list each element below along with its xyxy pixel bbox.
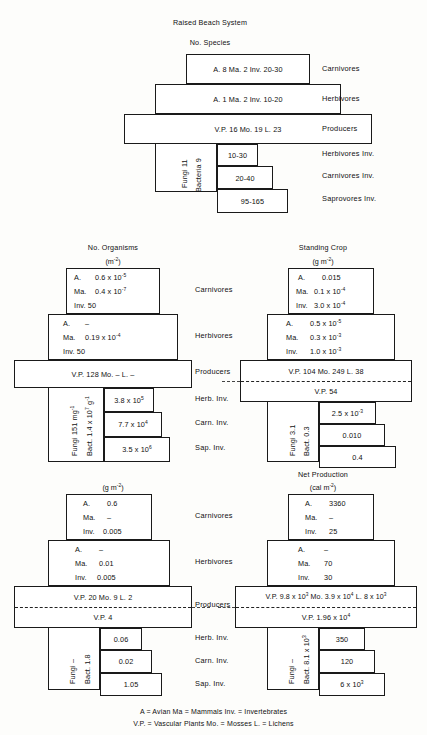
npc-carn-inv-value: 25 bbox=[329, 527, 337, 536]
organisms-fungi-label: Fungi 151 mg-1 bbox=[70, 406, 79, 456]
npc-sap-inv-box-value: 6 x 103 bbox=[320, 680, 384, 689]
standing-crop-herb-inv-box: 2.5 x 10-3 bbox=[319, 402, 376, 424]
npg-producers-value: V.P. 20 Mo. 9 L. 2 bbox=[15, 593, 191, 602]
npc-carn-inv-box-value: 120 bbox=[320, 657, 374, 666]
panel-title-species: No. Species bbox=[110, 38, 310, 47]
sc-carn-ma-label: Ma. bbox=[296, 287, 308, 296]
npc-producers-second-value: V.P. 1.96 x 104 bbox=[236, 613, 416, 622]
panel-title-standing-crop: Standing Crop bbox=[248, 243, 398, 252]
organisms-herb-a-label: A. bbox=[63, 319, 70, 328]
sc-producers-divider-ext bbox=[222, 381, 240, 382]
np-cal-herb-inv-box: 350 bbox=[319, 628, 365, 650]
npg-producers-second-value: V.P. 4 bbox=[15, 613, 191, 622]
npg-herb-inv-label: Inv. bbox=[75, 573, 87, 582]
panel-unit-organisms: (m-2) bbox=[38, 257, 188, 266]
standing-crop-carnivores-box: A. 0.015 Ma. 0.1 x 10-4 Inv. 3.0 x 10-4 bbox=[288, 268, 374, 314]
sc-bacteria-label: Bact. 0.3 bbox=[302, 426, 311, 456]
row-label-sap-inv-3: Sap. Inv. bbox=[195, 679, 225, 688]
organisms-bacteria-label: Bact. 1.4 x 107 g-1 bbox=[85, 396, 94, 456]
row-label-producers-2: Producers bbox=[195, 367, 230, 376]
npg-herb-a-value: – bbox=[99, 545, 103, 554]
organisms-carn-inv: Inv. 50 bbox=[74, 301, 96, 310]
row-label-herb-inv-3: Herb. Inv. bbox=[195, 633, 229, 642]
organisms-herb-inv-box: 3.8 x 105 bbox=[104, 388, 154, 412]
npg-herb-inv-value: 0.005 bbox=[97, 573, 116, 582]
sc-producers-second-value: V.P. 54 bbox=[241, 387, 411, 396]
npg-sap-inv-box-value: 1.05 bbox=[101, 680, 161, 689]
unit-text-standing-crop: (g m-2) bbox=[312, 257, 333, 266]
species-carn-inv-box: 20-40 bbox=[217, 166, 273, 189]
organisms-carnivores-box: A. 0.6 x 10-5 Ma. 0.4 x 10-7 Inv. 50 bbox=[66, 268, 160, 314]
sc-sap-inv-value: 0.4 bbox=[320, 453, 395, 462]
npc-herb-ma-value: 70 bbox=[324, 559, 332, 568]
row-label-sap-inv-1: Saprovores Inv. bbox=[322, 194, 376, 203]
species-carn-inv-value: 20-40 bbox=[218, 174, 272, 183]
sc-producers-value: V.P. 104 Mo. 249 L. 38 bbox=[241, 367, 411, 376]
species-carnivores-value: A. 8 Ma. 2 Inv. 20-30 bbox=[187, 65, 309, 74]
row-label-carnivores-3: Carnivores bbox=[195, 511, 233, 520]
panel-unit-net-production-cal: (cal m-2) bbox=[248, 483, 398, 492]
organisms-carn-a-value: 0.6 x 10-5 bbox=[95, 273, 126, 282]
npc-herb-a-label: A. bbox=[298, 545, 305, 554]
npg-herb-ma-value: 0.01 bbox=[99, 559, 114, 568]
npc-producers-value: V.P. 9.8 x 103 Mo. 3.9 x 104 L. 8 x 103 bbox=[236, 593, 416, 601]
organisms-carn-ma-value: 0.4 x 10-7 bbox=[95, 287, 126, 296]
sc-herb-ma-value: 0.3 x 10-3 bbox=[310, 333, 341, 342]
organisms-herb-ma-value: 0.19 x 10-4 bbox=[85, 333, 121, 342]
organisms-carn-a-label: A. bbox=[74, 273, 81, 282]
row-label-herb-inv-2: Herb. Inv. bbox=[195, 394, 229, 403]
row-label-producers-1: Producers bbox=[322, 124, 357, 133]
np-g-herbivores-box: A. – Ma. 0.01 Inv. 0.005 bbox=[48, 540, 170, 586]
sc-herb-inv-value: 2.5 x 10-3 bbox=[320, 409, 375, 418]
standing-crop-carn-inv-box: 0.010 bbox=[319, 424, 385, 446]
row-label-herbivores-2: Herbivores bbox=[195, 331, 233, 340]
np-cal-herbivores-box: A. – Ma. 70 Inv. 30 bbox=[267, 540, 395, 586]
organisms-carn-ma-label: Ma. bbox=[74, 287, 86, 296]
species-bacteria-label: Bacteria 9 bbox=[194, 158, 203, 192]
organisms-carn-inv-box: 7.7 x 104 bbox=[104, 412, 162, 437]
npc-producers-divider-ext bbox=[218, 607, 235, 608]
npg-herb-inv-box-value: 0.06 bbox=[101, 635, 141, 644]
species-herb-inv-box: 10-30 bbox=[217, 144, 258, 166]
npc-herb-inv-value: 30 bbox=[324, 573, 332, 582]
row-label-carnivores-2: Carnivores bbox=[195, 285, 233, 294]
legend-line-2: V.P. = Vascular Plants Mo. = Mosses L. =… bbox=[0, 720, 427, 727]
row-label-herbivores-1: Herbivores bbox=[322, 94, 360, 103]
npg-bacteria-label: Bact. 1.8 bbox=[83, 654, 92, 684]
species-sap-inv-value: 95-165 bbox=[218, 197, 287, 206]
organisms-herb-a-value: – bbox=[85, 319, 89, 328]
npg-carn-inv-label: Inv. bbox=[83, 527, 95, 536]
sc-carn-ma-value: 0.1 x 10-4 bbox=[314, 287, 345, 296]
np-cal-sap-inv-box: 6 x 103 bbox=[319, 673, 385, 696]
organisms-sap-inv-value: 3.5 x 106 bbox=[105, 445, 169, 454]
row-label-herb-inv-1: Herbivores Inv. bbox=[322, 149, 374, 158]
page-title: Raised Beach System bbox=[110, 18, 310, 27]
npc-producers-divider bbox=[236, 607, 416, 608]
organisms-herb-inv: Inv. 50 bbox=[63, 347, 85, 356]
organisms-sap-inv-box: 3.5 x 106 bbox=[104, 437, 170, 462]
npc-carn-ma-value: – bbox=[329, 513, 333, 522]
unit-text-organisms: (m-2) bbox=[105, 257, 120, 266]
npc-carn-a-value: 3360 bbox=[329, 499, 346, 508]
organisms-producers-box: V.P. 128 Mo. – L. – bbox=[14, 360, 192, 388]
np-cal-producers-box: V.P. 9.8 x 103 Mo. 3.9 x 104 L. 8 x 103 … bbox=[235, 586, 417, 628]
panel-unit-net-production-g: (g m-2) bbox=[38, 483, 188, 492]
npc-carn-a-label: A. bbox=[305, 499, 312, 508]
npc-carn-ma-label: Ma. bbox=[305, 513, 317, 522]
npg-carn-a-label: A. bbox=[83, 499, 90, 508]
npg-carn-inv-value: 0.005 bbox=[103, 527, 122, 536]
row-label-carn-inv-2: Carn. Inv. bbox=[195, 418, 229, 427]
sc-herb-inv-label: Inv. bbox=[286, 347, 298, 356]
npc-herb-inv-box-value: 350 bbox=[320, 635, 364, 644]
sc-carn-inv-label: Inv. bbox=[296, 301, 308, 310]
np-g-sap-inv-box: 1.05 bbox=[100, 673, 162, 696]
np-cal-carn-inv-box: 120 bbox=[319, 650, 375, 673]
row-label-carn-inv-1: Carnivores Inv. bbox=[322, 171, 374, 180]
row-label-carn-inv-3: Carn. Inv. bbox=[195, 656, 229, 665]
sc-herb-a-label: A. bbox=[286, 319, 293, 328]
organisms-herbivores-box: A. – Ma. 0.19 x 10-4 Inv. 50 bbox=[48, 314, 178, 360]
species-carnivores-box: A. 8 Ma. 2 Inv. 20-30 bbox=[186, 54, 310, 84]
species-herbivores-value: A. 1 Ma. 2 Inv. 10-20 bbox=[156, 95, 340, 104]
organisms-producers-value: V.P. 128 Mo. – L. – bbox=[15, 370, 191, 379]
unit-text-net-production-g: (g m-2) bbox=[102, 483, 123, 492]
